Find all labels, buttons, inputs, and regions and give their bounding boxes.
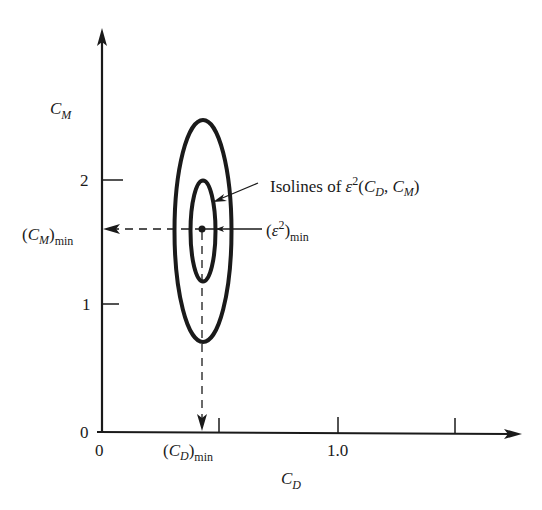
eps-min-label: (ε2)min xyxy=(266,218,309,244)
minimum-point xyxy=(199,226,206,233)
isolines-label: Isolines of ε2(CD, CM) xyxy=(270,174,419,199)
y-axis-label: CM xyxy=(50,99,72,122)
cd-min-label: (CD)min xyxy=(163,441,213,464)
x-tick-label-0: 0 xyxy=(95,441,104,460)
x-axis-label: CD xyxy=(281,469,301,492)
cm-min-label: (CM)min xyxy=(22,225,73,248)
isoline-diagram: CM 2 1 0 (CM)min 0 1.0 (CD)min CD Isolin… xyxy=(0,0,542,510)
y-tick-label-0: 0 xyxy=(80,423,89,442)
y-tick-label-2: 2 xyxy=(80,171,89,190)
y-tick-label-1: 1 xyxy=(82,295,91,314)
isolines-leader-line xyxy=(220,183,258,199)
isolines-arrow-icon xyxy=(213,194,227,202)
x-tick-label-1: 1.0 xyxy=(327,441,348,460)
x-axis xyxy=(97,432,512,434)
